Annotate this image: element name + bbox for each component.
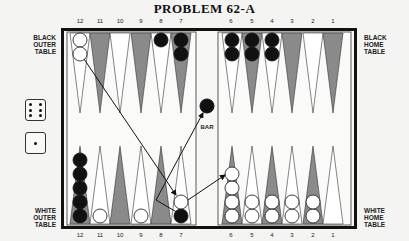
backgammon-board: BAR [0, 0, 409, 241]
bar-label: BAR [201, 124, 215, 130]
bar-checker [200, 99, 214, 113]
